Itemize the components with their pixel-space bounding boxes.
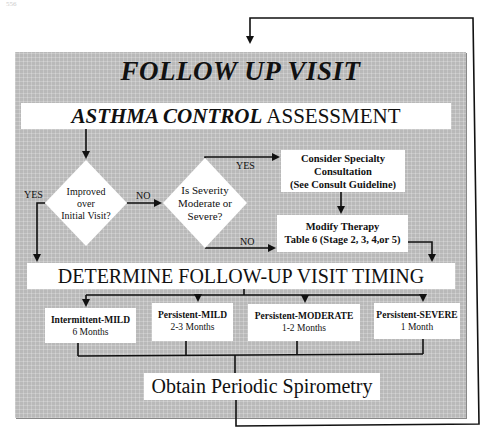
merge-line — [78, 354, 423, 356]
severity-yes-label: YES — [236, 160, 255, 171]
page-title: FOLLOW UP VISIT — [15, 56, 466, 87]
arrow-modify-to-determine — [408, 242, 432, 260]
assessment-box: ASTHMA CONTROL ASSESSMENT — [21, 103, 451, 129]
decision-improved: Improved over Initial Visit? — [56, 186, 116, 222]
improved-no-label: NO — [136, 190, 150, 201]
modify-therapy-box: Modify Therapy Table 6 (Stage 2, 3, 4,or… — [277, 215, 408, 252]
severity-box-intermittent-mild: Intermittent-MILD 6 Months — [45, 308, 136, 343]
severity-no-label: NO — [240, 236, 254, 247]
assessment-emphasis: ASTHMA CONTROL — [71, 104, 262, 128]
spirometry-box: Obtain Periodic Spirometry — [144, 373, 380, 400]
arrow-improved-yes — [37, 203, 45, 260]
severity-box-persistent-severe: Persistent-SEVERE 1 Month — [374, 303, 460, 339]
severity-box-persistent-mild: Persistent-MILD 2-3 Months — [152, 303, 233, 341]
decision-severity: Is Severity Moderate or Severe? — [172, 184, 238, 223]
assessment-rest: ASSESSMENT — [262, 104, 400, 128]
severity-box-persistent-moderate: Persistent-MODERATE 1-2 Months — [248, 304, 360, 341]
improved-yes-label: YES — [24, 189, 43, 200]
determine-timing-box: DETERMINE FOLLOW-UP VISIT TIMING — [27, 263, 455, 289]
consult-box: Consider Specialty Consultation (See Con… — [281, 150, 405, 192]
arrow-severity-yes — [205, 157, 278, 158]
